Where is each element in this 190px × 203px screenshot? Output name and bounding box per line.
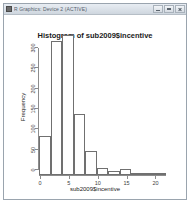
histogram-bar xyxy=(51,41,63,175)
window-controls xyxy=(153,5,185,13)
y-axis-label: 250 xyxy=(30,64,36,73)
maximize-button[interactable] xyxy=(164,5,174,13)
minimize-button[interactable] xyxy=(153,5,163,13)
r-graphics-window: R Graphics: Device 2 (ACTIVE) Histogram … xyxy=(3,3,187,200)
y-axis-title: Frequency xyxy=(20,93,27,121)
histogram-bar xyxy=(97,168,109,175)
x-axis-tick xyxy=(127,176,128,179)
y-axis-label: 200 xyxy=(30,84,36,93)
x-axis-tick xyxy=(40,176,41,179)
histogram-bar xyxy=(85,151,97,175)
x-axis-title: sub2009$incentive xyxy=(4,186,186,193)
histogram-bar xyxy=(62,35,74,175)
y-axis-label: 100 xyxy=(30,125,36,134)
r-app-icon xyxy=(6,6,12,12)
y-axis xyxy=(38,48,39,170)
x-axis: 05101520 xyxy=(39,175,166,176)
y-axis-label: 50 xyxy=(30,147,36,153)
x-axis-tick xyxy=(155,176,156,179)
window-titlebar[interactable]: R Graphics: Device 2 (ACTIVE) xyxy=(4,4,186,15)
histogram-bar xyxy=(74,114,86,175)
y-axis-label: 300 xyxy=(30,43,36,52)
plot-canvas: Histogram of sub2009$incentive Frequency… xyxy=(4,15,186,199)
histogram-bars xyxy=(39,35,166,175)
y-axis-label: 0 xyxy=(30,168,36,171)
x-axis-tick xyxy=(98,176,99,179)
y-axis-label: 150 xyxy=(30,104,36,113)
histogram-bar xyxy=(39,136,51,175)
close-button[interactable] xyxy=(175,5,185,13)
plot-area: 05101520 050100150200250300 xyxy=(38,45,166,176)
x-axis-tick xyxy=(69,176,70,179)
window-title: R Graphics: Device 2 (ACTIVE) xyxy=(14,6,153,12)
